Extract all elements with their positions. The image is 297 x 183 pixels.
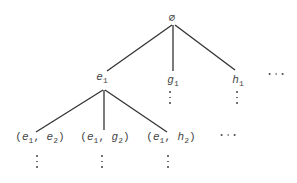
edge-e1-e1h2 [105, 90, 167, 132]
level2-more-ellipsis [221, 134, 236, 136]
tree-edges [0, 0, 297, 183]
node-e1: e1 [96, 71, 107, 87]
pair-second-sub: 2 [118, 136, 123, 145]
node-h1-sub: 1 [239, 79, 244, 88]
node-e1-e2: (e1, e2) [15, 131, 64, 147]
pair-first-sub: 1 [94, 136, 99, 145]
pair-second-sub: 2 [184, 136, 189, 145]
e1g2-continuation-dots [101, 155, 103, 168]
node-e1-h2: (e1, h2) [146, 131, 195, 147]
g1-continuation-dots [169, 91, 171, 104]
e1e2-continuation-dots [36, 155, 38, 168]
level1-more-ellipsis [269, 73, 284, 75]
node-g1: g1 [167, 74, 178, 90]
h1-continuation-dots [236, 91, 238, 104]
pair-second-sub: 2 [53, 136, 58, 145]
node-h1: h1 [232, 74, 243, 90]
edge-root-h1 [175, 25, 235, 70]
node-g1-sub: 1 [174, 79, 179, 88]
edge-e1-e1e2 [36, 90, 103, 132]
edge-root-e1 [107, 25, 172, 71]
node-e1-sub: 1 [103, 76, 108, 85]
pair-first-sub: 1 [160, 136, 165, 145]
emptyset-symbol: ∅ [169, 12, 176, 24]
e1h2-continuation-dots [167, 155, 169, 168]
pair-first-sub: 1 [29, 136, 34, 145]
node-root-emptyset: ∅ [169, 12, 176, 24]
node-e1-g2: (e1, g2) [80, 131, 129, 147]
